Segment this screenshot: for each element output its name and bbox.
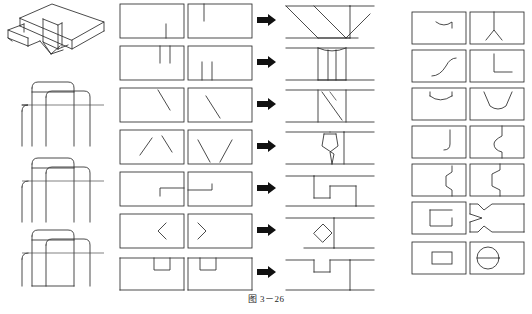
projection-view-1 [22, 82, 104, 146]
isometric-view [8, 4, 104, 54]
answer-row-3 [412, 88, 524, 120]
result-view-2 [286, 48, 374, 80]
answer-row-1 [412, 12, 524, 44]
result-view-5 [286, 176, 374, 206]
pictorial-and-projection-column [0, 0, 120, 292]
result-view-3 [286, 90, 374, 122]
view-transformation-exercise-grid [118, 0, 400, 292]
answer-row-7 [412, 242, 524, 274]
exercise-row-4 [120, 130, 374, 164]
transform-arrow-3 [257, 98, 276, 110]
transform-arrow-2 [257, 56, 276, 68]
exercise-row-6 [120, 214, 374, 248]
result-view-7 [286, 260, 374, 290]
result-view-6 [286, 218, 374, 248]
transform-arrow-6 [257, 224, 276, 236]
figure-caption: 图 3－26 [0, 292, 532, 305]
result-view-1 [286, 6, 374, 38]
exercise-row-2 [120, 46, 374, 80]
projection-view-2 [22, 158, 104, 222]
exercise-row-5 [120, 172, 374, 206]
exercise-row-1 [120, 4, 374, 38]
projection-view-3 [22, 230, 104, 286]
result-view-4 [286, 132, 374, 164]
figure-3-26: 图 3－26 [0, 0, 532, 314]
answer-row-6 [412, 202, 524, 234]
transform-arrow-1 [257, 14, 276, 26]
transform-arrow-5 [257, 182, 276, 194]
answer-row-4 [412, 126, 524, 158]
transform-arrow-4 [257, 140, 276, 152]
answer-row-2 [412, 50, 524, 82]
answer-key-grid [408, 0, 532, 292]
answer-row-5 [412, 164, 524, 196]
transform-arrow-7 [257, 266, 276, 278]
notched-bar-profile [470, 204, 524, 232]
exercise-row-3 [120, 88, 374, 122]
exercise-row-7 [120, 258, 374, 290]
